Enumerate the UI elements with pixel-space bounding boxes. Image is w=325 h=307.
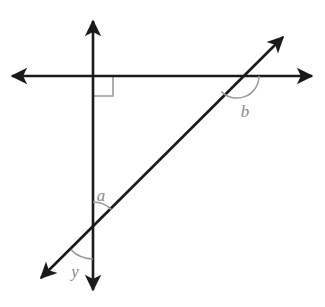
angle-label-b: b <box>241 102 250 121</box>
angle-arc-y <box>71 250 93 259</box>
angle-diagram: a b y <box>0 0 325 307</box>
right-angle-mark <box>94 77 113 96</box>
angle-label-a: a <box>97 186 106 205</box>
geometry-canvas: a b y <box>0 0 325 307</box>
angle-label-y: y <box>69 262 79 281</box>
diagonal-line <box>41 37 283 278</box>
